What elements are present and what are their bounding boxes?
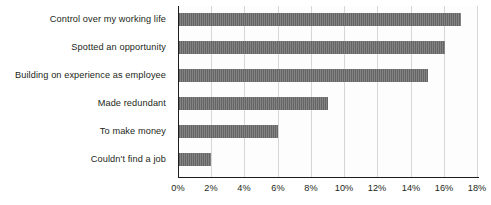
gridline (411, 6, 412, 178)
bar (178, 69, 428, 82)
gridline (477, 6, 478, 178)
plot-area (178, 6, 478, 178)
category-label: Couldn't find a job (91, 153, 166, 166)
category-label: Made redundant (98, 97, 166, 110)
y-axis-line (178, 6, 179, 178)
category-axis-labels: Control over my working life Spotted an … (0, 0, 172, 178)
gridline (377, 6, 378, 178)
bar (178, 97, 328, 110)
category-label: To make money (100, 125, 166, 138)
bar (178, 13, 461, 26)
bar (178, 153, 211, 166)
gridline (344, 6, 345, 178)
bar (178, 125, 278, 138)
category-label: Building on experience as employee (15, 69, 166, 82)
category-label: Spotted an opportunity (71, 41, 166, 54)
gridline (278, 6, 279, 178)
bar (178, 41, 445, 54)
gridline (311, 6, 312, 178)
gridline (244, 6, 245, 178)
gridline (444, 6, 445, 178)
x-tick-label: 18% (457, 182, 491, 194)
x-axis-line (178, 177, 479, 178)
category-label: Control over my working life (50, 13, 166, 26)
